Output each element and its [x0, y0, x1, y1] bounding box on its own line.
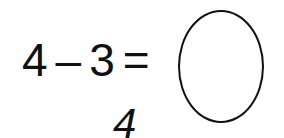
- operand-1: 4: [22, 37, 50, 83]
- minus-operator: –: [56, 37, 84, 83]
- operand-2: 3: [89, 37, 117, 83]
- equals-sign: =: [123, 37, 152, 83]
- handwritten-answer: 4: [113, 103, 136, 138]
- math-equation: 4–3=: [22, 37, 158, 83]
- answer-oval[interactable]: [178, 10, 264, 123]
